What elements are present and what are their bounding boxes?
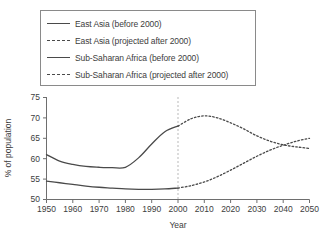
series-line: [178, 116, 310, 149]
x-tick-label: 2030: [247, 204, 266, 214]
series-line: [47, 126, 179, 168]
y-tick-label: 75: [31, 92, 41, 102]
y-tick-label: 60: [31, 154, 41, 164]
legend-label: Sub-Saharan Africa (projected after 2000…: [75, 70, 228, 80]
x-tick-label: 1960: [63, 204, 82, 214]
legend-swatch-solid-icon: [47, 53, 70, 63]
y-axis-title: % of population: [3, 118, 13, 177]
legend-label: East Asia (projected after 2000): [75, 36, 191, 46]
x-tick-label: 2000: [169, 204, 188, 214]
legend-swatch-solid-icon: [47, 19, 70, 29]
chart-page: East Asia (before 2000) East Asia (proje…: [0, 0, 321, 237]
y-tick-label: 65: [31, 133, 41, 143]
x-tick-label: 2050: [300, 204, 319, 214]
x-tick-label: 2020: [221, 204, 240, 214]
legend-label: Sub-Saharan Africa (before 2000): [75, 53, 199, 63]
chart-legend: East Asia (before 2000) East Asia (proje…: [40, 10, 256, 86]
y-axis-ticks: [43, 98, 47, 200]
x-tick-label: 1970: [90, 204, 109, 214]
y-tick-label: 50: [31, 194, 41, 204]
legend-item-east-asia-before: East Asia (before 2000): [47, 15, 255, 32]
line-chart: 50 55 60 65 70 75 1950: [0, 88, 321, 237]
plot-area: 50 55 60 65 70 75 1950: [0, 88, 321, 237]
legend-swatch-dashed-icon: [47, 70, 70, 80]
x-tick-label: 1950: [37, 204, 56, 214]
x-axis-title: Year: [169, 220, 186, 230]
x-axis-tick-labels: 1950 1960 1970 1980 1990 2000 2010 2020 …: [37, 204, 319, 214]
y-axis-tick-labels: 50 55 60 65 70 75: [31, 92, 41, 204]
series-line: [47, 181, 179, 189]
x-tick-label: 1990: [142, 204, 161, 214]
x-tick-label: 2010: [195, 204, 214, 214]
x-tick-label: 2040: [274, 204, 293, 214]
x-axis-ticks: [47, 200, 310, 204]
legend-item-east-asia-projected: East Asia (projected after 2000): [47, 32, 255, 49]
legend-swatch-dashed-icon: [47, 36, 70, 46]
legend-item-subsaharan-projected: Sub-Saharan Africa (projected after 2000…: [47, 66, 255, 83]
x-tick-label: 1980: [116, 204, 135, 214]
legend-item-subsaharan-before: Sub-Saharan Africa (before 2000): [47, 49, 255, 66]
legend-label: East Asia (before 2000): [75, 19, 162, 29]
y-tick-label: 70: [31, 113, 41, 123]
y-tick-label: 55: [31, 174, 41, 184]
